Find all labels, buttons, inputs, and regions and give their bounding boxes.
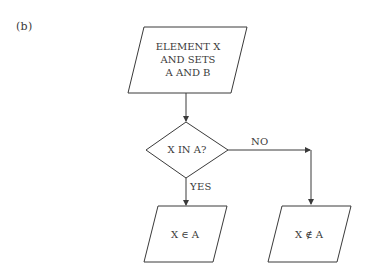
decision-text: X IN A? — [146, 143, 228, 156]
no-output-text: X ∉ A — [274, 228, 344, 241]
input-line-2: AND SETS — [138, 53, 238, 66]
yes-output-text: X ∈ A — [150, 228, 220, 241]
input-node-text: ELEMENT X AND SETS A AND B — [138, 40, 238, 79]
input-line-3: A AND B — [138, 66, 238, 79]
figure-label: (b) — [16, 20, 33, 33]
no-label: NO — [251, 136, 269, 147]
yes-label: YES — [190, 181, 212, 192]
input-line-1: ELEMENT X — [138, 40, 238, 53]
